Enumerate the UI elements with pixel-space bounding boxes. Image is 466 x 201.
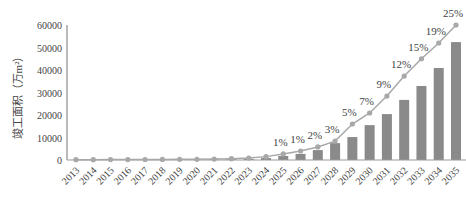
x-tick-label: 2027 [301, 165, 323, 187]
line-marker [298, 148, 303, 153]
x-tick-label: 2028 [319, 165, 341, 187]
line-marker [73, 157, 78, 162]
x-tick-label: 2026 [284, 165, 306, 187]
bar [451, 42, 461, 160]
x-tick-label: 2030 [353, 165, 375, 187]
percent-label: 1% [290, 133, 305, 145]
bar [399, 100, 409, 160]
line-marker [332, 139, 337, 144]
line-marker [367, 110, 372, 115]
x-tick-label: 2016 [111, 165, 133, 187]
line-marker [125, 157, 130, 162]
x-tick-label: 2034 [422, 165, 444, 187]
percent-label: 7% [359, 95, 374, 107]
percent-label: 25% [443, 7, 463, 19]
bar [347, 137, 357, 160]
line-marker [229, 156, 234, 161]
line-marker [194, 157, 199, 162]
percent-label: 5% [342, 106, 357, 118]
percent-label: 15% [408, 41, 428, 53]
chart: 0100002000030000400005000060000 竣工面积（万m²… [0, 0, 466, 201]
line-marker [246, 155, 251, 160]
y-tick-label: 40000 [37, 65, 62, 76]
x-tick-label: 2033 [405, 165, 427, 187]
bar [416, 86, 426, 160]
y-tick-label: 30000 [37, 88, 62, 99]
x-tick-label: 2022 [215, 165, 237, 187]
percent-label: 19% [426, 25, 446, 37]
x-tick-label: 2035 [439, 165, 461, 187]
line-marker [212, 157, 217, 162]
line-marker [384, 94, 389, 99]
bar [434, 68, 444, 160]
line-marker [108, 157, 113, 162]
percent-label: 3% [325, 123, 340, 135]
x-axis-ticks: 2013201420152016201720182019202020212022… [59, 165, 461, 187]
x-tick-label: 2021 [198, 165, 220, 187]
x-tick-label: 2029 [336, 165, 358, 187]
bar [382, 114, 392, 160]
x-tick-label: 2023 [232, 165, 254, 187]
percent-label: 1% [273, 136, 288, 148]
bar [278, 156, 288, 160]
x-tick-label: 2031 [370, 165, 392, 187]
line-marker [419, 56, 424, 61]
y-tick-label: 60000 [37, 20, 62, 31]
line-marker [436, 40, 441, 45]
line-marker [350, 121, 355, 126]
y-tick-label: 10000 [37, 133, 62, 144]
line-marker [315, 144, 320, 149]
bar [365, 125, 375, 160]
y-axis-ticks: 0100002000030000400005000060000 [37, 20, 62, 166]
trend-line [76, 25, 456, 160]
line-marker [263, 154, 268, 159]
x-tick-label: 2024 [249, 165, 271, 187]
x-tick-label: 2013 [59, 165, 81, 187]
x-tick-label: 2019 [163, 165, 185, 187]
y-axis-label: 竣工面积（万m²） [11, 51, 24, 140]
y-tick-label: 0 [57, 155, 62, 166]
x-tick-label: 2032 [388, 165, 410, 187]
x-tick-label: 2018 [146, 165, 168, 187]
x-tick-label: 2014 [77, 165, 99, 187]
y-tick-label: 20000 [37, 110, 62, 121]
bar [296, 154, 306, 160]
x-tick-label: 2017 [129, 165, 151, 187]
percent-label: 9% [377, 78, 392, 90]
bar [313, 150, 323, 160]
bar [330, 143, 340, 160]
y-tick-label: 50000 [37, 43, 62, 54]
percent-label: 2% [307, 129, 322, 141]
line-marker [453, 22, 458, 27]
x-tick-label: 2025 [267, 165, 289, 187]
line-marker [402, 73, 407, 78]
x-tick-label: 2015 [94, 165, 116, 187]
line-marker [142, 157, 147, 162]
line-marker [177, 157, 182, 162]
line-marker [160, 157, 165, 162]
line-marker [281, 151, 286, 156]
line-marker [91, 157, 96, 162]
x-tick-label: 2020 [180, 165, 202, 187]
percent-label: 12% [391, 58, 411, 70]
